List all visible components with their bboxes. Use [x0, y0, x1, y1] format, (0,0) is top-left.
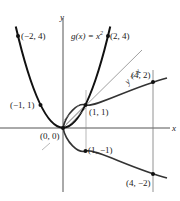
function-graph: y x g(x) = x2 y = x (−2, 4) (2, 4) (−1, … [0, 0, 180, 201]
point-1-1 [84, 103, 88, 107]
function-label: g(x) = x2 [71, 30, 103, 41]
label-4-m2: (4, −2) [126, 178, 151, 188]
point-m2-4 [16, 34, 20, 38]
origin-pointer [42, 143, 50, 150]
label-m2-4: (−2, 4) [21, 31, 46, 41]
sqrt-upper-curve [63, 78, 167, 128]
x-axis-label: x [171, 123, 176, 133]
point-4-2 [151, 80, 155, 84]
label-1-m1: (1, −1) [88, 145, 113, 155]
point-0-0 [61, 126, 65, 130]
point-m1-1 [39, 103, 43, 107]
label-0-0: (0, 0) [40, 131, 60, 141]
label-m1-1: (−1, 1) [10, 100, 35, 110]
point-1-m1 [84, 149, 88, 153]
label-2-4: (2, 4) [110, 31, 130, 41]
y-axis-label: y [59, 12, 64, 22]
point-4-m2 [151, 172, 155, 176]
label-1-1: (1, 1) [89, 107, 109, 117]
label-4-2: (4, 2) [131, 70, 151, 80]
sqrt-lower-curve [63, 128, 167, 178]
